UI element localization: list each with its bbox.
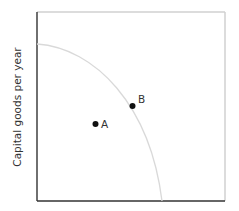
point-b-marker bbox=[130, 103, 136, 109]
ppc-chart: A B Capital goods per year bbox=[0, 0, 239, 211]
point-a-label: A bbox=[101, 118, 109, 130]
point-a-marker bbox=[93, 121, 99, 127]
point-b-label: B bbox=[138, 93, 145, 105]
y-axis-label: Capital goods per year bbox=[11, 47, 23, 167]
ppc-curve bbox=[37, 44, 162, 201]
